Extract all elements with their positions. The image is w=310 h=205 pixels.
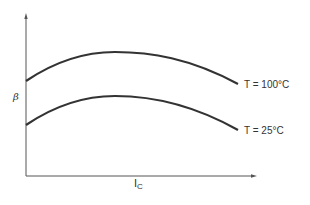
y-axis-label: β bbox=[13, 91, 19, 102]
axes bbox=[24, 13, 257, 178]
curve-label-t25: T = 25°C bbox=[244, 125, 284, 136]
x-axis-label: IC bbox=[134, 177, 143, 191]
curve-t100 bbox=[26, 52, 238, 84]
curve-label-t100: T = 100°C bbox=[244, 79, 289, 90]
y-axis-arrow bbox=[24, 13, 27, 19]
x-axis-arrow bbox=[251, 174, 257, 177]
curve-t25 bbox=[26, 96, 238, 130]
x-axis-label-sub: C bbox=[137, 182, 143, 191]
beta-vs-ic-plot bbox=[0, 0, 310, 205]
